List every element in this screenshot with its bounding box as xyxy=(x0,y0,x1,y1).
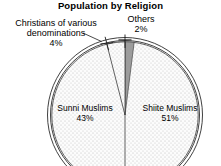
others-slice-label: Others 2% xyxy=(111,14,171,34)
shiite-slice-label: Shiite Muslims 51% xyxy=(128,104,212,123)
sunni-slice-label: Sunni Muslims 43% xyxy=(42,104,128,123)
christians-slice-name-line1: Christians of various xyxy=(15,18,97,28)
christians-slice-value: 4% xyxy=(2,38,110,48)
sunni-slice-name: Sunni Muslims xyxy=(57,103,112,113)
shiite-slice-value: 51% xyxy=(128,114,212,124)
christians-slice-label: Christians of various denominations 4% xyxy=(2,18,110,48)
chart-canvas: Population by Religion Others 2% Christi… xyxy=(0,0,221,166)
chart-title: Population by Religion xyxy=(0,1,221,12)
others-slice-value: 2% xyxy=(111,24,171,34)
shiite-slice-name: Shiite Muslims xyxy=(143,103,198,113)
others-slice-name: Others xyxy=(127,14,154,24)
christians-slice-name-line2: denominations xyxy=(27,28,86,38)
sunni-slice-value: 43% xyxy=(42,114,128,124)
